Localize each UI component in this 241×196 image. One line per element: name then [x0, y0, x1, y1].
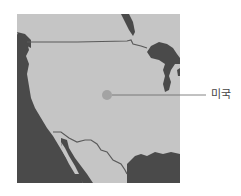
- leader-line: [0, 0, 241, 196]
- country-label: 미국: [211, 88, 231, 102]
